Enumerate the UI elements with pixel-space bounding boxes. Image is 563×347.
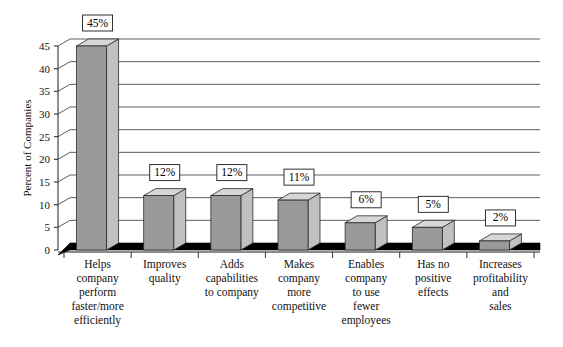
bar	[144, 189, 186, 250]
bar-front-face	[479, 241, 509, 250]
y-axis-tick-label: 10	[39, 199, 51, 211]
bar-front-face	[278, 200, 308, 250]
bar	[211, 189, 253, 250]
category-label-line: quality	[149, 272, 181, 285]
value-label-text: 45%	[87, 17, 109, 29]
bar-front-face	[412, 227, 442, 250]
value-label: 11%	[284, 169, 314, 185]
category-label-line: capabilities	[206, 272, 259, 285]
category-label-line: employees	[342, 314, 392, 327]
bar-side-face	[107, 39, 119, 250]
category-label-line: efficiently	[74, 314, 121, 327]
category-label-line: perform	[79, 286, 116, 299]
category-label-line: company	[76, 272, 118, 285]
bar-side-face	[174, 189, 186, 250]
y-axis-tick-label: 0	[45, 244, 51, 256]
bar-side-face	[308, 193, 320, 250]
value-label-text: 6%	[358, 193, 374, 205]
bar-front-face	[77, 46, 107, 250]
y-axis-tick-label: 40	[39, 63, 51, 75]
category-label-line: fewer	[353, 300, 379, 312]
category-label-line: effects	[418, 286, 449, 298]
category-label-line: profitability	[473, 272, 528, 285]
bar-front-face	[144, 196, 174, 250]
category-label-line: Has no	[417, 258, 450, 270]
y-axis-title: Percent of Companies	[21, 99, 33, 196]
x-axis-category-label: Has nopositiveeffects	[415, 258, 451, 298]
value-label: 6%	[351, 192, 381, 208]
y-axis-tick-label: 15	[39, 176, 51, 188]
bar-front-face	[345, 223, 375, 250]
bar	[77, 39, 119, 250]
category-label-line: Increases	[479, 258, 522, 270]
y-axis-tick-label: 35	[39, 85, 51, 97]
bar	[345, 216, 387, 250]
category-label-line: company	[278, 272, 320, 285]
value-label-text: 2%	[493, 211, 509, 223]
category-label-line: Makes	[284, 258, 315, 270]
bar	[278, 193, 320, 250]
y-axis-tick-label: 45	[39, 40, 51, 52]
x-axis-category-label: Improvesquality	[143, 258, 187, 285]
y-axis-tick-label: 5	[45, 221, 51, 233]
bar-side-face	[241, 189, 253, 250]
y-axis-tick-label: 25	[39, 131, 51, 143]
y-axis-tick-label: 20	[39, 153, 51, 165]
bar-chart: 051015202530354045 45%12%12%11%6%5%2% He…	[0, 0, 563, 347]
bar-front-face	[211, 196, 241, 250]
value-label-text: 5%	[426, 198, 442, 210]
value-label: 12%	[217, 165, 247, 181]
value-label: 12%	[150, 165, 180, 181]
category-label-line: sales	[489, 300, 512, 312]
category-label-line: Helps	[84, 258, 111, 271]
value-label: 2%	[485, 210, 515, 226]
category-label-line: Improves	[143, 258, 187, 271]
category-label-line: to company	[205, 286, 259, 299]
category-label-line: company	[345, 272, 387, 285]
category-label-line: and	[492, 286, 509, 298]
value-label-text: 11%	[289, 171, 310, 183]
y-axis-tick-label: 30	[39, 108, 51, 120]
value-label: 5%	[418, 196, 448, 212]
category-label-line: faster/more	[71, 300, 123, 312]
category-label-line: more	[287, 286, 311, 298]
bar	[412, 220, 454, 250]
category-label-line: to use	[353, 286, 380, 298]
chart-canvas: 051015202530354045 45%12%12%11%6%5%2% He…	[0, 0, 563, 347]
category-label-line: Adds	[220, 258, 245, 270]
category-label-line: positive	[415, 272, 451, 285]
category-label-line: competitive	[272, 300, 326, 313]
value-label: 45%	[83, 15, 113, 31]
value-label-text: 12%	[221, 166, 243, 178]
category-label-line: Enables	[348, 258, 385, 270]
value-label-text: 12%	[154, 166, 176, 178]
